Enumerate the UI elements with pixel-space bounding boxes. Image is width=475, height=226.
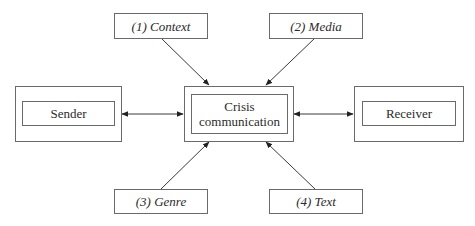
arrow-context-center bbox=[161, 38, 209, 85]
media-label: (2) Media bbox=[269, 13, 363, 39]
genre-label: (3) Genre bbox=[114, 189, 208, 214]
context-label: (1) Context bbox=[114, 13, 208, 39]
crisis-communication-label: Crisis communication bbox=[191, 94, 288, 134]
crisis-communication-line2: communication bbox=[199, 114, 280, 129]
arrow-genre-center bbox=[161, 142, 209, 189]
crisis-communication-line1: Crisis bbox=[224, 99, 254, 114]
text-label: (4) Text bbox=[269, 189, 363, 214]
receiver-label: Receiver bbox=[362, 101, 456, 126]
arrow-media-center bbox=[266, 38, 315, 85]
sender-label: Sender bbox=[22, 101, 115, 126]
arrow-text-center bbox=[266, 142, 315, 189]
